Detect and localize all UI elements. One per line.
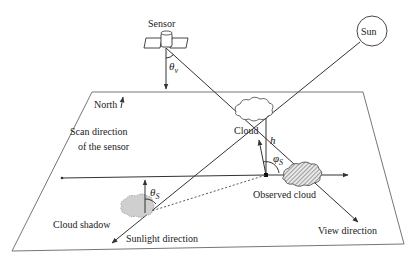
cloud-shadow-icon — [121, 194, 155, 217]
sun-label: Sun — [361, 26, 377, 37]
scan-direction-line — [62, 175, 266, 178]
cloud-shadow-geometry-diagram: Sensor θv Sun North Cloud h φS Scan dire… — [0, 0, 411, 262]
satellite-icon — [144, 31, 188, 48]
sensor-label: Sensor — [148, 18, 176, 29]
theta-v-label: θv — [169, 60, 178, 75]
shadow-projection-dashed-line — [145, 175, 266, 213]
scan-direction-label-line2: of the sensor — [78, 141, 130, 152]
north-label: North — [94, 99, 117, 110]
cloud-label: Cloud — [234, 125, 258, 136]
observed-cloud-icon — [283, 162, 322, 186]
scan-direction-label-line1: Scan direction — [70, 126, 127, 137]
scan-line-end-dot — [61, 177, 64, 180]
sunlight-direction-label: Sunlight direction — [126, 233, 198, 244]
theta-v-arc — [166, 55, 173, 58]
local-north-arrow — [259, 140, 266, 175]
cloud-icon — [235, 97, 273, 121]
view-direction-label: View direction — [318, 225, 377, 236]
north-arrow-icon — [121, 97, 123, 108]
height-label: h — [270, 134, 276, 146]
cloud-shadow-label: Cloud shadow — [53, 219, 111, 230]
observed-cloud-label: Observed cloud — [253, 189, 316, 200]
